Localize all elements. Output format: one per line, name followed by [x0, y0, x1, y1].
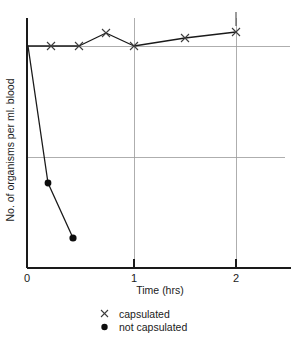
legend-cross-icon [101, 310, 108, 317]
legend-label-capsulated: capsulated [119, 308, 170, 320]
x-tick-label-0: 0 [24, 272, 30, 284]
line-chart-svg: 0 1 2 Time (hrs) No. of organisms per ml… [0, 0, 298, 341]
legend-dot-icon [101, 324, 107, 330]
not-capsulated-point [45, 180, 52, 187]
x-tick-label-2: 2 [233, 272, 239, 284]
chart-legend: capsulated not capsulated [101, 308, 187, 333]
series-not-capsulated [28, 46, 77, 242]
gridlines [27, 18, 290, 268]
chart-figure: 0 1 2 Time (hrs) No. of organisms per ml… [0, 0, 298, 341]
not-capsulated-point [69, 234, 76, 241]
not-capsulated-line [28, 46, 73, 238]
capsulated-point [102, 29, 110, 37]
x-axis-title: Time (hrs) [136, 284, 183, 296]
axes [27, 18, 291, 268]
x-tick-label-1: 1 [131, 272, 137, 284]
y-axis-title: No. of organisms per ml. blood [4, 78, 16, 221]
legend-label-not-capsulated: not capsulated [119, 321, 187, 333]
